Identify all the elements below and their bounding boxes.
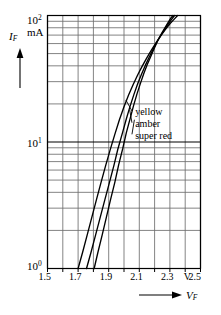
x-tick-label-6: 2.5 bbox=[189, 271, 202, 282]
y-axis-top-label: 102 bbox=[27, 14, 42, 26]
y-axis-unit-label: mA bbox=[27, 27, 44, 38]
legend-label-yellow: yellow bbox=[135, 106, 162, 117]
x-tick-label-5: 2.3 bbox=[161, 271, 174, 282]
y-axis-mid-label: 101 bbox=[27, 137, 42, 149]
x-tick-label-1: 1.5 bbox=[39, 271, 52, 282]
legend-label-super-red: super red bbox=[135, 130, 172, 141]
x-axis-title: VF bbox=[186, 290, 197, 301]
x-tick-label-2: 1.7 bbox=[69, 271, 82, 282]
y-axis-title: IF bbox=[9, 31, 17, 42]
x-tick-label-4: 2.1 bbox=[130, 271, 143, 282]
chart-figure: 102 mA 101 100 IF VF 1.5 1.7 1.9 2.1 2.3… bbox=[0, 0, 221, 315]
x-tick-label-3: 1.9 bbox=[100, 271, 113, 282]
legend-label-amber: amber bbox=[135, 118, 160, 129]
